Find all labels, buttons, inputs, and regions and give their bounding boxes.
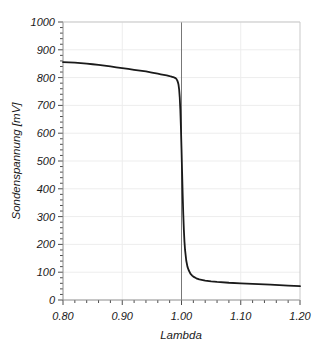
y-axis-tick-label: 0 [49, 294, 56, 306]
y-axis-tick-label: 900 [37, 44, 56, 56]
x-axis-tick-label: 1.00 [171, 310, 193, 322]
y-axis-tick-label: 300 [37, 211, 56, 223]
y-axis-tick-label: 400 [37, 183, 56, 195]
x-axis-tick-label: 0.90 [112, 310, 134, 322]
x-axis-tick-label: 0.80 [52, 310, 74, 322]
y-axis-tick-label: 700 [37, 99, 56, 111]
y-axis-tick-label: 100 [37, 266, 56, 278]
x-axis-tick-label: 1.10 [230, 310, 252, 322]
y-axis-title: Sondenspannung [mV] [10, 102, 22, 220]
chart-figure: 01002003004005006007008009001000 0.800.9… [0, 0, 328, 357]
y-axis-tick-label: 800 [37, 72, 56, 84]
y-axis-tick-label: 200 [36, 238, 56, 250]
y-axis-tick-label: 500 [37, 155, 56, 167]
x-axis-title: Lambda [160, 329, 202, 341]
y-axis-tick-label: 600 [37, 127, 56, 139]
chart-canvas: 01002003004005006007008009001000 0.800.9… [0, 0, 328, 357]
x-axis-tick-label: 1.20 [289, 310, 311, 322]
y-axis-tick-label: 1000 [31, 16, 56, 28]
